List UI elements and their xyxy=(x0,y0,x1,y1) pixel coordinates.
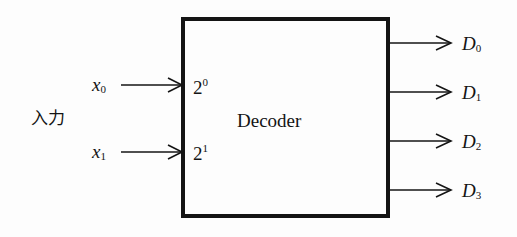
input-label-x1: x1 xyxy=(92,142,106,162)
output-subscript: 1 xyxy=(476,91,482,103)
port-label-2-1: 21 xyxy=(193,143,208,163)
output-arrow-d2 xyxy=(390,134,451,148)
output-var: D xyxy=(462,82,476,103)
output-label-d3: D3 xyxy=(462,181,481,201)
output-arrow-d3 xyxy=(390,183,451,197)
port-base: 2 xyxy=(193,143,203,164)
output-label-d0: D0 xyxy=(462,34,481,54)
input-label-x0: x0 xyxy=(92,75,106,95)
output-var: D xyxy=(462,33,476,54)
output-arrow-d0 xyxy=(390,36,451,50)
input-group-label: 入力 xyxy=(31,110,65,127)
port-exponent: 1 xyxy=(203,142,209,154)
output-arrow-d1 xyxy=(390,85,451,99)
output-label-d2: D2 xyxy=(462,132,481,152)
port-base: 2 xyxy=(193,77,203,98)
decoder-title: Decoder xyxy=(237,111,301,130)
output-var: D xyxy=(462,131,476,152)
output-var: D xyxy=(462,180,476,201)
output-subscript: 0 xyxy=(476,42,482,54)
port-label-2-0: 20 xyxy=(193,77,208,97)
input-subscript: 1 xyxy=(100,150,106,162)
input-subscript: 0 xyxy=(100,83,106,95)
port-exponent: 0 xyxy=(203,76,209,88)
input-arrow-x1 xyxy=(121,145,182,159)
output-label-d1: D1 xyxy=(462,83,481,103)
decoder-diagram: 入力 x0 x1 20 21 Decoder D0 D1 D2 D3 xyxy=(0,0,517,237)
output-subscript: 3 xyxy=(476,189,482,201)
input-arrow-x0 xyxy=(121,78,182,92)
output-subscript: 2 xyxy=(476,140,482,152)
